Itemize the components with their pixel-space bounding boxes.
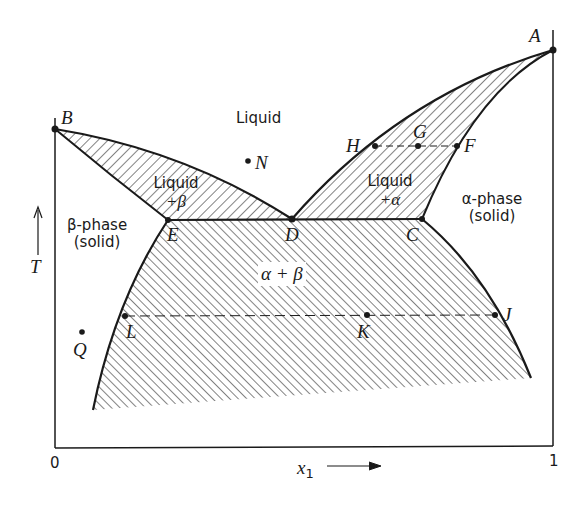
label-g: G bbox=[413, 122, 427, 141]
x-axis-arrowhead-icon bbox=[369, 462, 381, 470]
point-c bbox=[419, 216, 425, 222]
point-e bbox=[165, 217, 171, 223]
point-d bbox=[289, 216, 296, 223]
label-e: E bbox=[167, 225, 179, 244]
point-q bbox=[79, 329, 85, 335]
region-label-alpha-phase-line1: α-phase bbox=[448, 191, 536, 208]
label-f: F bbox=[464, 136, 476, 155]
region-label-beta-phase-line2: (solid) bbox=[57, 234, 137, 251]
point-f bbox=[454, 143, 460, 149]
label-c: C bbox=[406, 225, 419, 244]
label-b: B bbox=[61, 108, 73, 127]
x-tick-0: 0 bbox=[50, 456, 60, 471]
label-a: A bbox=[529, 26, 541, 45]
point-j bbox=[492, 312, 498, 318]
point-k bbox=[364, 312, 370, 318]
region-label-alpha-beta: α + β bbox=[258, 262, 306, 286]
point-n bbox=[245, 158, 251, 164]
point-g bbox=[415, 143, 421, 149]
region-label-beta-phase: β-phase (solid) bbox=[57, 217, 137, 252]
region-label-alpha-phase-line2: (solid) bbox=[448, 208, 536, 225]
region-label-liquid-alpha-line2: +α bbox=[360, 190, 420, 210]
point-a bbox=[550, 47, 557, 54]
region-label-alpha-phase: α-phase (solid) bbox=[448, 191, 536, 226]
point-l bbox=[122, 313, 128, 319]
label-k: K bbox=[357, 322, 370, 341]
x-tick-1: 1 bbox=[549, 454, 559, 469]
point-b bbox=[52, 126, 59, 133]
point-h bbox=[372, 143, 378, 149]
phase-diagram bbox=[0, 0, 583, 509]
region-label-liquid: Liquid bbox=[236, 110, 281, 127]
label-d: D bbox=[285, 225, 299, 244]
x-axis-label-sub: 1 bbox=[305, 466, 313, 481]
label-q: Q bbox=[73, 340, 87, 359]
region-label-liquid-alpha: Liquid +α bbox=[360, 173, 420, 210]
label-l: L bbox=[126, 322, 137, 341]
region-label-liquid-alpha-line1: Liquid bbox=[360, 173, 420, 190]
region-label-liquid-beta-line1: Liquid bbox=[146, 175, 206, 192]
region-label-liquid-beta-line2: +β bbox=[146, 192, 206, 212]
region-alpha-beta bbox=[93, 219, 531, 410]
x-axis-label: x1 bbox=[297, 458, 314, 480]
region-label-liquid-beta: Liquid +β bbox=[146, 175, 206, 212]
label-h: H bbox=[346, 136, 360, 155]
y-axis-label: T bbox=[30, 257, 41, 276]
label-n: N bbox=[255, 153, 268, 172]
region-label-beta-phase-line1: β-phase bbox=[57, 217, 137, 234]
x-axis bbox=[55, 446, 553, 448]
label-j: J bbox=[503, 305, 511, 324]
